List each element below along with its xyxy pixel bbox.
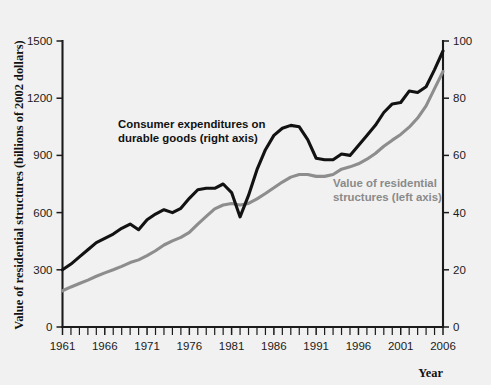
y-axis-right-tick-label: 60 bbox=[453, 149, 466, 161]
y-axis-right-tick-label: 0 bbox=[453, 321, 459, 333]
x-axis-tick-label: 2001 bbox=[388, 340, 414, 352]
x-axis-ticks: 1961196619711976198119861991199620012006 bbox=[50, 327, 456, 352]
y-axis-right-tick-label: 100 bbox=[453, 35, 472, 47]
y-axis-left-tick-label: 0 bbox=[46, 321, 52, 333]
chart-figure: Value of residential structures (billion… bbox=[0, 0, 491, 385]
y-axis-right-tick-label: 80 bbox=[453, 92, 466, 104]
x-axis-tick-label: 1971 bbox=[134, 340, 160, 352]
y-axis-right-ticks: 020406080100 bbox=[443, 35, 472, 333]
y-axis-left-tick-label: 600 bbox=[33, 207, 52, 219]
y-axis-right-tick-label: 20 bbox=[453, 264, 466, 276]
y-axis-left-tick-label: 900 bbox=[33, 149, 52, 161]
x-axis-title: Year bbox=[418, 366, 443, 380]
y-axis-left-tick-label: 1200 bbox=[27, 92, 53, 104]
y-axis-right-tick-label: 40 bbox=[453, 207, 466, 219]
y-axis-left-ticks: 030060090012001500 bbox=[27, 35, 63, 333]
annotation-residential-structures: Value of residential structures (left ax… bbox=[333, 176, 442, 205]
x-axis-tick-label: 1986 bbox=[261, 340, 287, 352]
y-axis-left-title: Value of residential structures (billion… bbox=[12, 40, 26, 329]
y-axis-left-tick-label: 300 bbox=[33, 264, 52, 276]
x-axis-tick-label: 1966 bbox=[92, 340, 118, 352]
x-axis-tick-label: 1996 bbox=[346, 340, 372, 352]
x-axis-tick-label: 1981 bbox=[219, 340, 245, 352]
x-axis-tick-label: 1991 bbox=[303, 340, 329, 352]
series-line-durable-goods bbox=[63, 51, 444, 270]
y-axis-left-tick-label: 1500 bbox=[27, 35, 53, 47]
x-axis-tick-label: 1976 bbox=[177, 340, 203, 352]
x-axis-tick-label: 1961 bbox=[50, 340, 76, 352]
annotation-durable-goods: Consumer expenditures on durable goods (… bbox=[118, 117, 265, 146]
x-axis-tick-label: 2006 bbox=[430, 340, 456, 352]
